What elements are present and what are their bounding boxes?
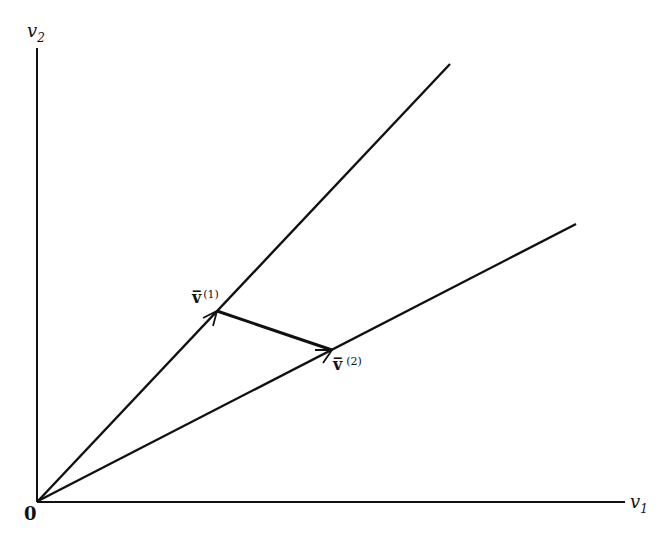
v2-label: v̅(2) bbox=[332, 355, 362, 374]
diagram-canvas: v2 v1 0 v̅(1) v̅(2) bbox=[0, 0, 668, 536]
upper-ray bbox=[38, 64, 450, 501]
v1-v2-segment bbox=[217, 311, 332, 350]
origin-label: 0 bbox=[24, 503, 37, 524]
y-axis-label: v2 bbox=[27, 20, 45, 45]
lower-ray bbox=[38, 224, 576, 501]
v1-label: v̅(1) bbox=[191, 288, 219, 307]
x-axis-label: v1 bbox=[630, 491, 648, 516]
